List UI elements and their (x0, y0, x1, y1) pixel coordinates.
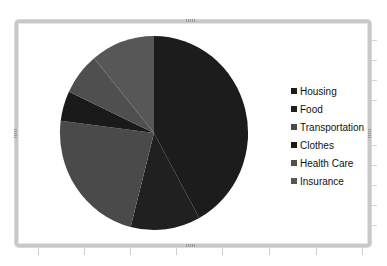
legend-label: Health Care (300, 158, 353, 169)
legend-label: Transportation (300, 122, 364, 133)
legend-swatch-icon (291, 160, 297, 166)
pie-chart[interactable] (59, 35, 249, 231)
legend-item-food[interactable]: Food (291, 100, 364, 118)
legend-item-health-care[interactable]: Health Care (291, 154, 364, 172)
resize-handle-left[interactable] (14, 128, 17, 138)
resize-handle-top[interactable] (186, 19, 196, 22)
legend-swatch-icon (291, 142, 297, 148)
legend-swatch-icon (291, 124, 297, 130)
legend-label: Housing (300, 86, 337, 97)
legend-label: Food (300, 104, 323, 115)
legend-swatch-icon (291, 106, 297, 112)
legend-swatch-icon (291, 178, 297, 184)
pie-svg (59, 35, 249, 231)
legend-item-insurance[interactable]: Insurance (291, 172, 364, 190)
legend-label: Insurance (300, 176, 344, 187)
legend-label: Clothes (300, 140, 334, 151)
legend-item-clothes[interactable]: Clothes (291, 136, 364, 154)
ruler-bottom (0, 247, 387, 257)
ruler-right (371, 20, 379, 247)
legend-swatch-icon (291, 88, 297, 94)
legend-item-housing[interactable]: Housing (291, 82, 364, 100)
legend[interactable]: HousingFoodTransportationClothesHealth C… (291, 82, 364, 190)
legend-item-transportation[interactable]: Transportation (291, 118, 364, 136)
